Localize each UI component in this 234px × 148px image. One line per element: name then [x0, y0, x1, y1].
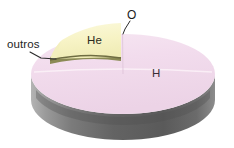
pie-label-o: O	[127, 9, 136, 21]
o-leader-line	[123, 21, 130, 34]
pie-label-h: H	[152, 68, 160, 80]
pie-chart-figure: outros He O H	[0, 0, 234, 148]
pie-chart-canvas	[0, 0, 234, 148]
pie-label-he: He	[87, 35, 102, 47]
he-wedge-arc	[50, 23, 121, 59]
pie-label-outros: outros	[7, 39, 40, 51]
pie-slice-he-exploded	[50, 23, 121, 64]
